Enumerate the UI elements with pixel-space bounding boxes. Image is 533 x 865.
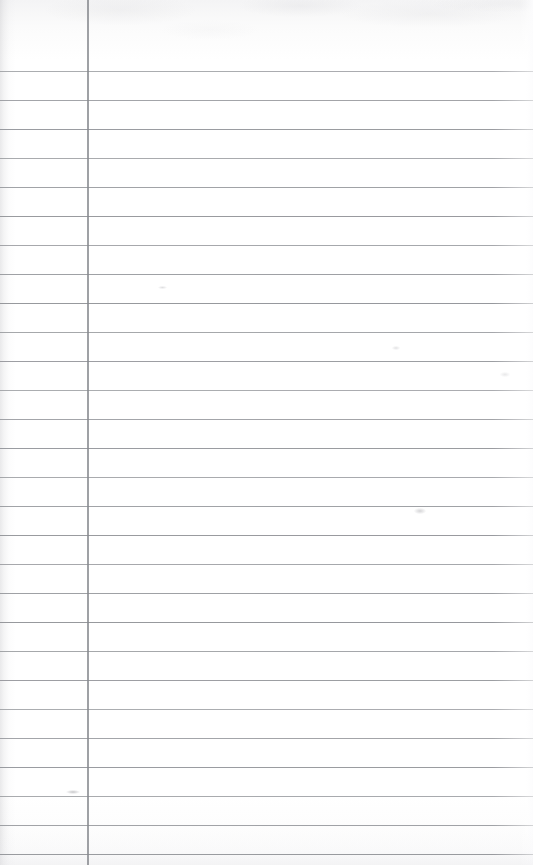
page-content-layer <box>0 0 533 865</box>
scanned-page <box>0 0 533 865</box>
